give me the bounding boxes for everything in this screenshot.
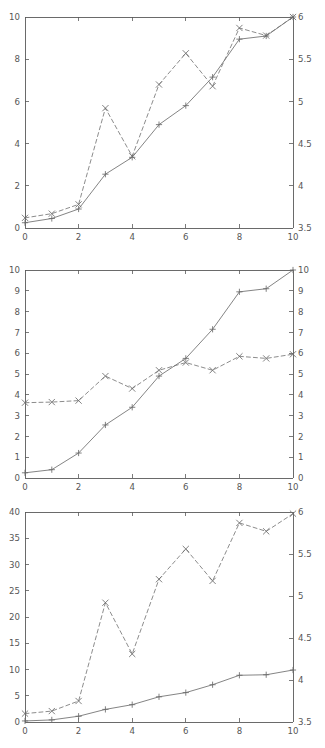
data-point-marker [236,289,242,295]
y-axis-left-tick-label: 6 [15,97,20,107]
data-point-marker [263,528,269,534]
y-axis-left-tick-label: 5 [15,691,20,701]
y-axis-left-tick-label: 7 [15,328,20,338]
chart-2-canvas: 0123456789100123456789100246810 [0,253,325,495]
data-point-marker [102,105,108,111]
x-axis: 0246810 [22,512,298,736]
y-axis-left-tick-label: 15 [9,638,20,648]
data-point-marker [236,672,242,678]
series-solid-plus-series [22,267,296,476]
y-axis-left-tick-label: 0 [15,473,20,483]
x-axis-tick-label: 0 [22,482,27,492]
data-point-marker [129,651,135,657]
x-axis-tick-label: 6 [183,482,188,492]
y-axis-left: 0510152025303540 [9,507,29,727]
data-point-marker [236,25,242,31]
y-axis-left-tick-label: 25 [9,586,20,596]
data-point-marker [263,286,269,292]
y-axis-left-tick-label: 8 [15,54,20,64]
y-axis-left-tick-label: 20 [9,612,20,622]
data-point-marker [102,373,108,379]
y-axis-left-tick-label: 2 [15,181,20,191]
x-axis-tick-label: 8 [237,482,242,492]
data-point-marker [290,267,296,273]
x-axis-tick-label: 2 [76,726,81,736]
y-axis-right-tick-label: 7 [298,328,303,338]
y-axis-right-tick-label: 4.5 [298,139,312,149]
y-axis-right-tick-label: 4 [298,390,303,400]
y-axis-left-tick-label: 0 [15,223,20,233]
y-axis-right-tick-label: 1 [298,452,303,462]
y-axis-left-tick-label: 4 [15,139,20,149]
y-axis-right-tick-label: 6 [298,348,303,358]
series-dashed-cross-series [22,511,296,717]
data-point-marker [210,682,216,688]
y-axis-left-tick-label: 8 [15,307,20,317]
y-axis-right-tick-label: 5 [298,97,303,107]
y-axis-right: 3.544.555.56 [289,12,312,233]
y-axis-right-tick-label: 4.5 [298,633,312,643]
x-axis-tick-label: 6 [183,232,188,242]
y-axis-right-tick-label: 5.5 [298,54,312,64]
data-point-marker [156,81,162,87]
y-axis-right: 012345678910 [289,265,309,483]
series-line [25,514,293,714]
y-axis-left-tick-label: 35 [9,533,20,543]
y-axis-left-tick-label: 40 [9,507,20,517]
data-point-marker [210,367,216,373]
x-axis-tick-label: 10 [288,482,299,492]
x-axis-tick-label: 8 [237,232,242,242]
x-axis: 0246810 [22,270,298,492]
x-axis-tick-label: 4 [129,232,134,242]
data-point-marker [156,694,162,700]
y-axis-left-tick-label: 0 [15,717,20,727]
y-axis-left: 012345678910 [9,265,29,483]
data-point-marker [290,667,296,673]
y-axis-right-tick-label: 5 [298,591,303,601]
y-axis-left-tick-label: 1 [15,452,20,462]
y-axis-left-tick-label: 9 [15,286,20,296]
y-axis-left-tick-label: 10 [9,12,20,22]
chart-panel-2: 0123456789100123456789100246810 [0,253,325,495]
data-point-marker [156,576,162,582]
x-axis-tick-label: 4 [129,482,134,492]
figure-root: 02468103.544.555.560246810 0123456789100… [0,0,325,748]
y-axis-left-tick-label: 10 [9,265,20,275]
data-point-marker [102,706,108,712]
y-axis-right-tick-label: 6 [298,507,303,517]
y-axis-left-tick-label: 2 [15,432,20,442]
series-line [25,17,293,218]
data-point-marker [129,385,135,391]
data-point-marker [210,83,216,89]
series-solid-plus-series [22,14,296,226]
data-point-marker [236,36,242,42]
data-point-marker [76,698,82,704]
x-axis-tick-label: 6 [183,726,188,736]
x-axis-tick-label: 4 [129,726,134,736]
x-axis-tick-label: 0 [22,726,27,736]
data-point-marker [129,702,135,708]
x-axis-tick-label: 10 [288,232,299,242]
y-axis-left-tick-label: 6 [15,348,20,358]
y-axis-right-tick-label: 5.5 [298,549,312,559]
data-point-marker [22,718,28,724]
data-point-marker [236,520,242,526]
x-axis-tick-label: 2 [76,482,81,492]
y-axis-right-tick-label: 6 [298,12,303,22]
y-axis-left-tick-label: 3 [15,411,20,421]
axis-frame [25,512,293,722]
data-point-marker [183,690,189,696]
y-axis-right: 3.544.555.56 [289,507,312,727]
data-point-marker [76,713,82,719]
y-axis-right-tick-label: 3.5 [298,223,312,233]
x-axis-tick-label: 2 [76,232,81,242]
y-axis-left-tick-label: 30 [9,560,20,570]
x-axis-tick-label: 0 [22,232,27,242]
x-axis-tick-label: 8 [237,726,242,736]
x-axis-tick-label: 10 [288,726,299,736]
chart-panel-1: 02468103.544.555.560246810 [0,0,325,253]
y-axis-right-tick-label: 5 [298,369,303,379]
data-point-marker [156,367,162,373]
y-axis-right-tick-label: 4 [298,675,303,685]
series-line [25,17,293,223]
